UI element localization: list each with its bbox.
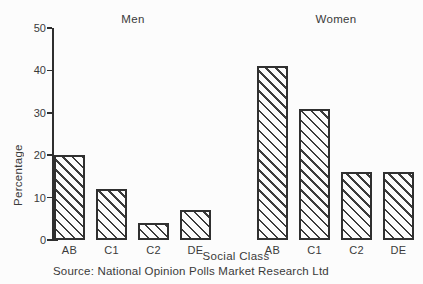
y-tick-label-30: 30 bbox=[18, 107, 46, 119]
y-tick-30 bbox=[47, 112, 52, 114]
y-tick-label-50: 50 bbox=[18, 22, 46, 34]
y-tick-label-40: 40 bbox=[18, 64, 46, 76]
bar-men-ab bbox=[54, 155, 85, 240]
bar-men-c1 bbox=[96, 189, 127, 240]
bar-men-c2 bbox=[138, 223, 169, 240]
y-tick-20 bbox=[47, 154, 52, 156]
bar-chart-figure: Percentage Men Women 01020304050ABC1C2DE… bbox=[0, 0, 423, 284]
group-title-women: Women bbox=[291, 13, 381, 25]
bar-men-de bbox=[180, 210, 211, 240]
category-label-women-de: DE bbox=[378, 244, 419, 256]
category-label-women-c2: C2 bbox=[336, 244, 377, 256]
x-axis-title: Social Class bbox=[181, 250, 291, 262]
category-label-women-c1: C1 bbox=[294, 244, 335, 256]
y-tick-40 bbox=[47, 70, 52, 72]
y-tick-label-10: 10 bbox=[18, 192, 46, 204]
bar-women-ab bbox=[257, 66, 288, 240]
y-tick-label-0: 0 bbox=[18, 234, 46, 246]
group-title-men: Men bbox=[88, 13, 178, 25]
category-label-men-ab: AB bbox=[49, 244, 90, 256]
bar-women-c2 bbox=[341, 172, 372, 240]
category-label-men-c2: C2 bbox=[133, 244, 174, 256]
y-tick-50 bbox=[47, 27, 52, 29]
bar-women-c1 bbox=[299, 109, 330, 240]
source-note: Source: National Opinion Polls Market Re… bbox=[53, 265, 329, 277]
y-axis-title: Percentage bbox=[11, 108, 25, 242]
y-tick-label-20: 20 bbox=[18, 149, 46, 161]
bar-women-de bbox=[383, 172, 414, 240]
category-label-men-c1: C1 bbox=[91, 244, 132, 256]
y-tick-0 bbox=[47, 239, 52, 241]
y-tick-10 bbox=[47, 197, 52, 199]
